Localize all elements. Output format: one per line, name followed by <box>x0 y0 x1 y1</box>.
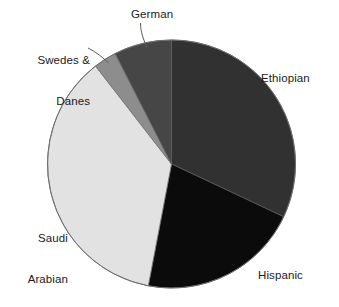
slice-label-german: German <box>131 8 173 22</box>
slice-label-swedes-danes-line2: Danes <box>12 95 90 109</box>
pie-chart: Ethiopian Hispanic Saudi Arabian Swedes … <box>0 0 339 307</box>
slice-label-swedes-danes: Swedes & Danes <box>12 27 90 135</box>
slice-label-hispanic: Hispanic <box>258 269 303 283</box>
slice-label-saudi-arabian: Saudi Arabian <box>6 205 68 307</box>
slice-label-swedes-danes-line1: Swedes & <box>12 54 90 68</box>
slice-label-saudi-arabian-line1: Saudi <box>6 232 68 246</box>
slice-label-ethiopian: Ethiopian <box>261 72 310 86</box>
slice-label-saudi-arabian-line2: Arabian <box>6 273 68 287</box>
